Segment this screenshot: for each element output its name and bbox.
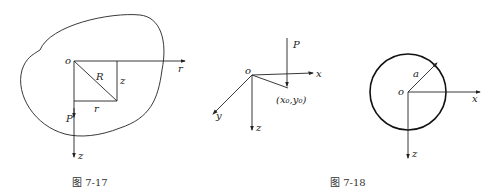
origin-label: o — [245, 65, 251, 76]
x-axis-label: x — [472, 93, 478, 104]
caption-7-18: 图 7-18 — [330, 177, 366, 188]
y-axis — [213, 75, 252, 114]
point-label: (x₀,y₀) — [276, 94, 306, 105]
offset-line — [252, 75, 288, 88]
caption-7-17: 图 7-17 — [72, 177, 108, 188]
figure-7-17: o R z r r P z 图 7-17 — [21, 15, 185, 188]
y-axis-label: y — [215, 110, 222, 121]
figure-7-18: a o x z 图 7-18 — [330, 54, 480, 188]
force-label: P — [292, 39, 300, 50]
figure-canvas: o R z r r P z 图 7-17 P o x y z (x₀,y₀) a… — [0, 0, 492, 196]
irregular-body-outline — [21, 15, 164, 136]
origin-label: o — [65, 55, 71, 66]
force-label: P — [65, 113, 73, 124]
x-axis — [252, 73, 313, 75]
z-side-label: z — [119, 75, 126, 86]
radius-label: R — [95, 71, 104, 82]
origin-label: o — [398, 86, 404, 97]
point-load-axes: P o x y z (x₀,y₀) — [213, 38, 322, 133]
z-axis-label: z — [411, 148, 418, 159]
z-axis-label: z — [255, 122, 262, 133]
r-side-label: r — [94, 103, 100, 114]
radius-label: a — [413, 68, 419, 79]
r-axis-label: r — [178, 63, 184, 74]
z-axis-label: z — [77, 150, 84, 161]
x-axis-label: x — [316, 68, 322, 79]
